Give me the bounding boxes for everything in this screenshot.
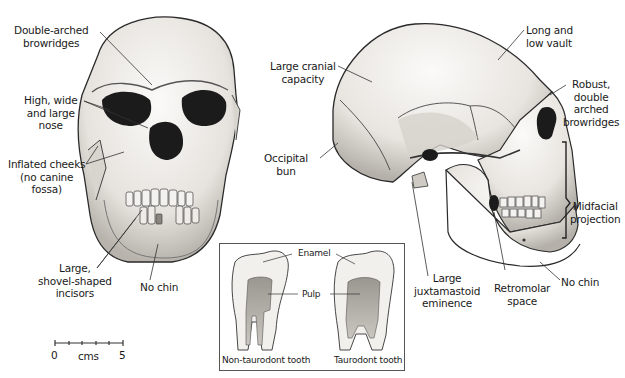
- frontal-skull: [78, 17, 240, 262]
- label-line: Large,: [38, 262, 112, 275]
- label-line: capacity: [270, 73, 336, 86]
- scale-bar: [55, 340, 123, 346]
- label-midfacial-projection: Midfacial projection: [570, 200, 620, 225]
- scale-end: 5: [119, 349, 125, 362]
- label-shovel-incisors: Large, shovel-shaped incisors: [38, 262, 112, 300]
- label-pulp: Pulp: [302, 289, 320, 300]
- label-line: arched: [563, 103, 619, 116]
- label-line: Large: [414, 272, 480, 285]
- label-line: Occipital: [264, 152, 308, 165]
- label-nose: High, wide and large nose: [24, 94, 77, 132]
- scale-unit: cms: [78, 350, 99, 363]
- teeth-inset-box: [219, 243, 405, 371]
- label-retromolar-space: Retromolar space: [494, 282, 550, 307]
- label-line: low vault: [526, 37, 573, 50]
- label-line: shovel-shaped: [38, 275, 112, 288]
- caption-non-taurodont: Non-taurodont tooth: [222, 355, 310, 366]
- label-cranial-capacity: Large cranial capacity: [270, 60, 336, 85]
- label-line: Long and: [526, 24, 573, 37]
- label-double-arched-browridges: Double-arched browridges: [14, 24, 88, 49]
- label-line: Double-arched: [14, 24, 88, 37]
- label-line: (no canine: [8, 171, 85, 184]
- label-line: High, wide: [24, 94, 77, 107]
- label-line: space: [494, 295, 550, 308]
- label-line: and large: [24, 107, 77, 120]
- label-line: browridges: [563, 116, 619, 129]
- label-line: incisors: [38, 287, 112, 300]
- label-inflated-cheeks: Inflated cheeks (no canine fossa): [8, 158, 85, 196]
- label-long-low-vault: Long and low vault: [526, 24, 573, 49]
- label-line: projection: [570, 213, 620, 226]
- label-line: bun: [264, 165, 308, 178]
- label-occipital-bun: Occipital bun: [264, 152, 308, 177]
- label-line: browridges: [14, 37, 88, 50]
- label-line: Inflated cheeks: [8, 158, 85, 171]
- label-line: double: [563, 91, 619, 104]
- label-line: Large cranial: [270, 60, 336, 73]
- label-juxtamastoid-eminence: Large juxtamastoid eminence: [414, 272, 480, 310]
- label-line: Robust,: [563, 78, 619, 91]
- label-robust-browridges: Robust, double arched browridges: [563, 78, 619, 128]
- label-frontal-no-chin: No chin: [140, 281, 178, 294]
- label-line: Retromolar: [494, 282, 550, 295]
- label-lateral-no-chin: No chin: [561, 276, 599, 289]
- lateral-skull: [333, 24, 580, 267]
- label-enamel: Enamel: [298, 248, 331, 259]
- caption-taurodont: Taurodont tooth: [334, 355, 402, 366]
- label-line: eminence: [414, 297, 480, 310]
- label-line: Midfacial: [570, 200, 620, 213]
- label-line: nose: [24, 119, 77, 132]
- label-line: fossa): [8, 183, 85, 196]
- scale-start: 0: [51, 349, 57, 362]
- label-line: juxtamastoid: [414, 285, 480, 298]
